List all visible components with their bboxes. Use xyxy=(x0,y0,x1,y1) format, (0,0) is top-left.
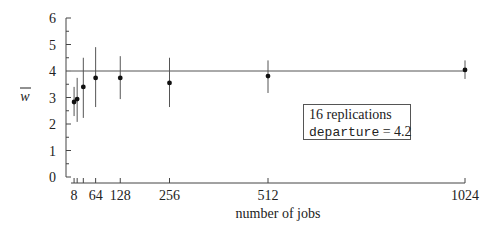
y-tick-label: 0 xyxy=(49,170,56,185)
x-tick-label: 128 xyxy=(110,188,131,203)
x-axis-label: number of jobs xyxy=(236,206,321,221)
departure-value: = 4.2 xyxy=(379,124,411,139)
data-point-group xyxy=(93,47,98,107)
data-point-group xyxy=(118,56,123,99)
x-tick-label: 256 xyxy=(159,188,180,203)
annotation-replications: 16 replications xyxy=(309,106,405,123)
x-tick-label: 1024 xyxy=(451,188,479,203)
data-point-group xyxy=(72,87,77,116)
data-point-group xyxy=(75,78,80,122)
data-point-marker xyxy=(75,97,80,102)
chart: 0123456 8641282565121024 number of jobsw xyxy=(0,0,491,231)
x-tick-label: 512 xyxy=(258,188,279,203)
data-point-marker xyxy=(167,81,172,86)
y-tick-label: 3 xyxy=(49,91,56,106)
data-point-group xyxy=(167,58,172,107)
data-point-marker xyxy=(81,85,86,90)
y-axis: 0123456 xyxy=(49,11,71,185)
y-tick-label: 6 xyxy=(49,11,56,26)
x-axis: 8641282565121024 xyxy=(71,178,479,203)
y-axis-label: w xyxy=(20,89,30,104)
x-tick-label: 8 xyxy=(71,188,78,203)
y-tick-label: 2 xyxy=(49,117,56,132)
x-tick-label: 64 xyxy=(89,188,103,203)
y-tick-label: 5 xyxy=(49,38,56,53)
y-tick-label: 4 xyxy=(49,64,56,79)
annotation-departure: departure = 4.2 xyxy=(309,123,405,141)
annotation-box: 16 replications departure = 4.2 xyxy=(303,104,411,140)
data-point-marker xyxy=(266,74,271,79)
data-point-group xyxy=(463,60,468,79)
y-tick-label: 1 xyxy=(49,144,56,159)
data-point-group xyxy=(266,60,271,93)
data-point-marker xyxy=(118,75,123,80)
data-point-marker xyxy=(463,68,468,73)
data-point-marker xyxy=(93,75,98,80)
data-point-group xyxy=(81,58,86,118)
departure-code: departure xyxy=(309,125,379,140)
